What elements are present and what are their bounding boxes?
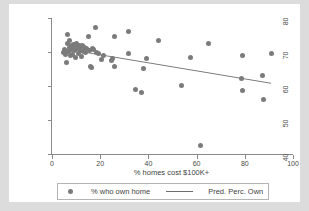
scatter-point — [93, 25, 98, 30]
chart-figure: 4050607080 020406080100 % homes cost $10… — [0, 0, 309, 211]
x-axis-tick-label: 40 — [144, 160, 152, 167]
x-axis-tick-label: 80 — [241, 160, 249, 167]
legend-circle-marker-icon — [68, 189, 73, 194]
legend-line-swatch-icon — [166, 191, 193, 192]
y-axis-tick — [48, 18, 52, 19]
legend-label-scatter: % who own home — [91, 187, 150, 196]
scatter-point — [64, 60, 69, 65]
y-axis-tick — [48, 52, 52, 53]
scatter-point — [206, 41, 211, 46]
chart-legend: % who own home Pred. Perc. Own — [57, 183, 269, 200]
x-axis-tick — [148, 155, 149, 159]
x-axis-tick-label: 20 — [96, 160, 104, 167]
chart-inner-frame: 4050607080 020406080100 % homes cost $10… — [9, 4, 300, 202]
x-axis-tick-label: 100 — [287, 160, 299, 167]
x-axis-tick-label: 60 — [193, 160, 201, 167]
plot-area: 4050607080 020406080100 — [51, 18, 293, 155]
x-axis-tick — [293, 155, 294, 159]
x-axis-tick-label: 0 — [50, 160, 54, 167]
legend-entry-scatter[interactable]: % who own home — [68, 184, 150, 199]
scatter-point — [86, 34, 91, 39]
x-axis-tick — [52, 155, 53, 159]
y-axis-tick — [48, 86, 52, 87]
x-axis-tick — [245, 155, 246, 159]
y-axis-tick-label: 50 — [283, 120, 290, 128]
legend-label-line: Pred. Perc. Own — [208, 187, 263, 196]
y-axis-tick — [48, 120, 52, 121]
x-axis-tick — [197, 155, 198, 159]
scatter-point — [133, 87, 138, 92]
y-axis-tick-label: 70 — [283, 52, 290, 60]
scatter-point — [269, 51, 274, 56]
scatter-point — [96, 51, 101, 56]
scatter-point — [101, 53, 106, 58]
scatter-point — [112, 34, 117, 39]
y-axis-tick-label: 80 — [283, 18, 290, 26]
x-axis-tick — [100, 155, 101, 159]
scatter-point — [239, 76, 244, 81]
plot-canvas — [52, 18, 293, 154]
x-axis-title: % homes cost $100K+ — [51, 168, 292, 177]
scatter-point — [65, 32, 70, 37]
scatter-point — [240, 53, 245, 58]
legend-entry-line[interactable]: Pred. Perc. Own — [166, 184, 263, 199]
y-axis-tick-label: 60 — [283, 86, 290, 94]
